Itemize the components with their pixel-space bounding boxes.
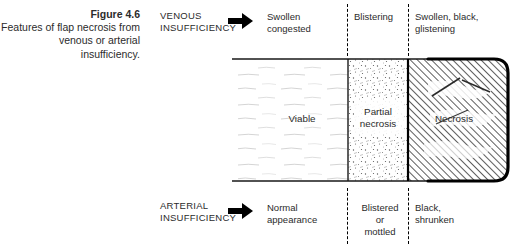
figure-caption: Figure 4.6 Features of flap necrosis fro… [0, 8, 140, 61]
arterial-column-3-text: Black, shrunken [415, 202, 515, 226]
arterial-column-1-text: Normal appearance [267, 202, 343, 226]
flap-zone-partial-necrosis [348, 59, 408, 181]
column-separator-top-2 [408, 4, 409, 56]
right-arrow-icon [228, 202, 254, 220]
flap-zone-viable [232, 59, 348, 181]
column-separator-top-1 [347, 4, 348, 56]
arterial-column-2-text: Blistered or mottled [352, 202, 408, 239]
arterial-insufficiency-label: ARTERIAL INSUFFICIENCY [160, 200, 236, 225]
figure-caption-title: Figure 4.6 [0, 8, 140, 21]
figure-caption-body: Features of flap necrosis from venous or… [0, 21, 140, 61]
venous-column-3-text: Swollen, black, glistening [415, 11, 515, 35]
venous-column-2-text: Blistering [354, 11, 408, 23]
figure-container: Figure 4.6 Features of flap necrosis fro… [0, 0, 523, 246]
column-separator-bottom-2 [408, 188, 409, 244]
flap-zone-necrosis [408, 59, 512, 181]
venous-insufficiency-label: VENOUS INSUFFICIENCY [160, 10, 236, 35]
flap-illustration [232, 52, 517, 188]
venous-column-1-text: Swollen congested [267, 11, 343, 35]
column-separator-bottom-1 [347, 188, 348, 244]
right-arrow-icon [228, 12, 254, 30]
